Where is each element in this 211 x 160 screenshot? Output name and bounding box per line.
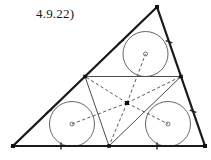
bottom-left-vertex-dot — [11, 144, 15, 148]
midpoint-right-side-dot — [179, 75, 183, 79]
geometry-figure: 4.9.22) — [0, 0, 211, 160]
dash-center-to-right-circle — [127, 103, 168, 124]
bottom-right-vertex-dot — [203, 144, 207, 148]
dash-center-to-midpoint-bottom — [109, 103, 127, 146]
apex-vertex-dot — [155, 5, 159, 9]
dash-center-to-midpoint-left — [85, 77, 127, 104]
midpoint-bottom-dot — [107, 144, 111, 148]
dash-center-to-left-circle — [72, 103, 127, 124]
midpoint-left-side-dot — [83, 75, 87, 79]
geometry-canvas — [0, 0, 211, 160]
center-point-group — [125, 101, 129, 105]
dashed-radii-group — [72, 54, 181, 146]
center-point — [125, 101, 129, 105]
